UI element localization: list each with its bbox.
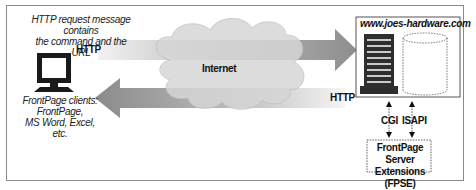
request-note-line-1: HTTP request message contains xyxy=(26,14,136,36)
client-computer-icon xyxy=(34,53,74,92)
isapi-label: ISAPI xyxy=(402,115,427,126)
server-title: www.joes-hardware.com xyxy=(360,18,471,29)
fpse-label: FrontPage Server Extensions (FPSE) xyxy=(369,142,431,190)
client-label-line-2: FrontPage, xyxy=(18,106,102,117)
cgi-label: CGI xyxy=(381,115,398,126)
client-label-line-1: FrontPage clients: xyxy=(18,95,102,106)
internet-label: Internet xyxy=(202,63,236,74)
client-label-line-3: MS Word, Excel, etc. xyxy=(18,117,102,139)
server-tower-icon xyxy=(360,34,398,94)
fpse-label-line-2: Extensions (FPSE) xyxy=(369,166,431,190)
http-request-label: HTTP xyxy=(76,44,101,55)
client-label: FrontPage clients: FrontPage, MS Word, E… xyxy=(18,95,102,139)
http-response-label: HTTP xyxy=(330,92,355,103)
fpse-label-line-1: FrontPage Server xyxy=(369,142,431,166)
